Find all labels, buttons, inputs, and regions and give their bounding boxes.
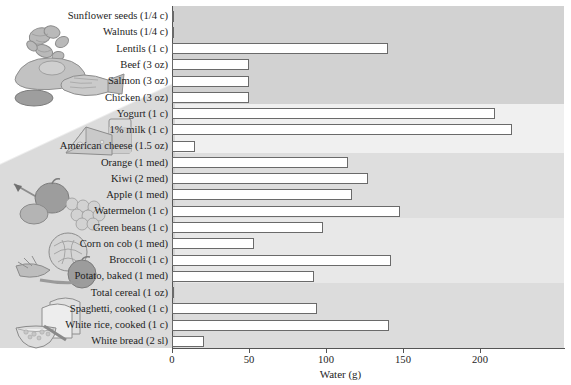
category-label: Spaghetti, cooked (1 c) [0,301,168,317]
category-label: Yogurt (1 c) [0,106,168,122]
bar [172,320,389,331]
bar [172,206,400,217]
bar [172,108,495,119]
category-label: Broccoli (1 c) [0,252,168,268]
category-label: Corn on cob (1 med) [0,236,168,252]
x-axis-title-text: Water (g) [320,368,362,380]
x-tick-label: 200 [472,354,488,365]
category-label: White rice, cooked (1 c) [0,317,168,333]
bar [172,189,352,200]
bar [172,141,195,152]
category-label: Chicken (3 oz) [0,90,168,106]
bar [172,59,249,70]
x-axis-line [172,348,565,349]
bar [172,173,368,184]
bar [172,43,388,54]
bar [172,287,174,298]
water-content-bar-chart: Sunflower seeds (1/4 c)Walnuts (1/4 c)Le… [0,0,571,385]
category-label: Green beans (1 c) [0,220,168,236]
x-tick [403,348,404,353]
bar [172,124,512,135]
x-tick-label: 50 [244,354,255,365]
bar [172,336,204,347]
x-tick [326,348,327,353]
category-label: Lentils (1 c) [0,41,168,57]
bar [172,255,391,266]
category-label: Apple (1 med) [0,187,168,203]
category-label: Sunflower seeds (1/4 c) [0,8,168,24]
category-label: Kiwi (2 med) [0,171,168,187]
x-tick-label: 150 [395,354,411,365]
x-tick [480,348,481,353]
bar [172,27,174,38]
category-label: Walnuts (1/4 c) [0,24,168,40]
bar [172,222,323,233]
category-label: Salmon (3 oz) [0,73,168,89]
category-label: Potato, baked (1 med) [0,268,168,284]
bar [172,238,254,249]
x-tick-label: 0 [169,354,174,365]
category-label: American cheese (1.5 oz) [0,138,168,154]
bar [172,303,317,314]
x-tick [172,348,173,353]
bar [172,11,174,22]
category-label: Orange (1 med) [0,155,168,171]
category-label: 1% milk (1 c) [0,122,168,138]
bar [172,76,249,87]
bar [172,157,348,168]
category-label: Watermelon (1 c) [0,203,168,219]
category-label: Total cereal (1 oz) [0,285,168,301]
bar [172,271,314,282]
x-tick-label: 100 [318,354,334,365]
x-tick [249,348,250,353]
category-label: White bread (2 sl) [0,333,168,349]
x-axis-title: Water (g) [0,368,571,380]
category-label: Beef (3 oz) [0,57,168,73]
bar [172,92,249,103]
